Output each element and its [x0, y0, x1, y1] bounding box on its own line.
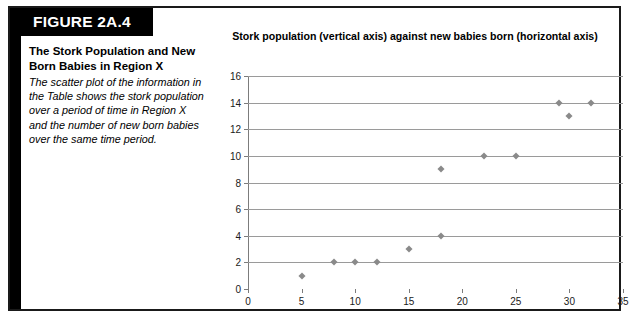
gridline	[248, 76, 623, 77]
figure-left-spine	[10, 8, 21, 309]
x-axis-tick	[462, 289, 463, 293]
y-axis-tick-label: 6	[235, 204, 241, 215]
scatter-chart: Stork population (vertical axis) against…	[215, 30, 615, 300]
data-point	[352, 259, 359, 266]
y-axis-tick	[244, 236, 248, 237]
figure-frame: FIGURE 2A.4 The Stork Population and New…	[8, 6, 621, 311]
data-point	[587, 99, 594, 106]
data-point	[330, 259, 337, 266]
figure-number-banner: FIGURE 2A.4	[21, 8, 153, 36]
chart-title: Stork population (vertical axis) against…	[215, 30, 615, 44]
x-axis-tick-label: 5	[299, 296, 305, 307]
gridline	[248, 209, 623, 210]
x-axis-tick-label: 35	[617, 296, 628, 307]
y-axis-tick	[244, 209, 248, 210]
y-axis-tick	[244, 262, 248, 263]
gridline	[248, 156, 623, 157]
y-axis-tick	[244, 76, 248, 77]
caption-body: The scatter plot of the information in t…	[29, 75, 207, 146]
x-axis-tick	[569, 289, 570, 293]
x-axis-tick-label: 10	[350, 296, 361, 307]
x-axis-tick-label: 25	[510, 296, 521, 307]
gridline	[248, 262, 623, 263]
gridline	[248, 183, 623, 184]
data-point	[373, 259, 380, 266]
y-axis-tick-label: 4	[235, 230, 241, 241]
gridline	[248, 103, 623, 104]
y-axis-tick	[244, 156, 248, 157]
data-point	[437, 166, 444, 173]
x-axis-tick-label: 30	[564, 296, 575, 307]
x-axis-tick-label: 15	[403, 296, 414, 307]
x-axis-tick	[516, 289, 517, 293]
data-point	[437, 232, 444, 239]
y-axis-tick-label: 10	[230, 150, 241, 161]
data-point	[298, 272, 305, 279]
x-axis-tick	[248, 289, 249, 293]
x-axis-tick	[302, 289, 303, 293]
x-axis-tick	[355, 289, 356, 293]
x-axis-tick-label: 0	[245, 296, 251, 307]
y-axis-tick-label: 0	[235, 284, 241, 295]
x-axis-tick	[409, 289, 410, 293]
data-point	[405, 246, 412, 253]
y-axis-tick-label: 12	[230, 124, 241, 135]
data-point	[480, 152, 487, 159]
data-point	[566, 112, 573, 119]
y-axis-tick	[244, 183, 248, 184]
x-axis-tick-label: 20	[457, 296, 468, 307]
y-axis-tick	[244, 103, 248, 104]
figure-number-label: FIGURE 2A.4	[33, 13, 131, 31]
gridline	[248, 129, 623, 130]
y-axis-tick-label: 16	[230, 71, 241, 82]
plot-area: 0246810121416 05101520253035	[248, 76, 623, 289]
gridline	[248, 236, 623, 237]
y-axis-tick-label: 2	[235, 257, 241, 268]
y-axis-tick-label: 8	[235, 177, 241, 188]
figure-caption: The Stork Population and New Born Babies…	[29, 44, 207, 146]
data-point	[555, 99, 562, 106]
caption-title: The Stork Population and New Born Babies…	[29, 44, 207, 73]
y-axis-tick	[244, 129, 248, 130]
y-axis-tick-label: 14	[230, 97, 241, 108]
x-axis-tick	[623, 289, 624, 293]
data-point	[512, 152, 519, 159]
